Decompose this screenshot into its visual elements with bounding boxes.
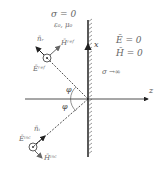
incident-h-arrow [35,151,42,158]
right-medium-e: Ē = 0 [116,36,142,45]
reflected-angle-label: φ [66,86,72,94]
diagram-canvas [0,0,157,173]
reflected-h-label: H̄ʳᵉᶠ [61,40,74,47]
right-medium-sigma: σ →∞ [102,69,121,76]
incident-direction-label: n̄ᵢ [34,126,40,133]
right-medium-h: H̄ = 0 [116,49,143,58]
reflected-e-label: Ēʳᵉᶠ [33,66,45,73]
reflected-direction-label: n̄ᵣ [37,36,44,43]
reflected-h-arrow [50,46,60,55]
conductor-wall [88,19,92,157]
incident-direction-arrow [36,136,45,144]
incident-angle-label: φ [62,103,68,111]
reflected-direction-arrow [36,47,44,55]
z-axis-label: z [149,87,153,95]
x-axis-label: x [94,41,99,49]
left-medium-params: ε₀, μ₀ [54,22,72,29]
left-medium-sigma: σ = 0 [51,10,76,19]
incident-h-label: H̄ⁱⁿᶜ [44,155,57,162]
incident-e-label: Ēⁱⁿᶜ [19,136,31,143]
